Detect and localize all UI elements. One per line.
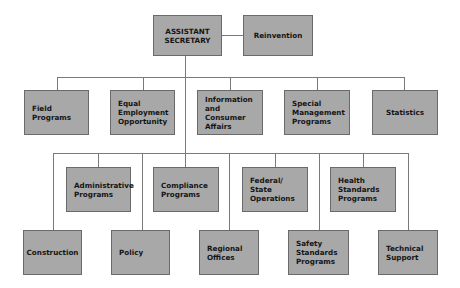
policy-connector [142,153,143,230]
root-to-reinvention-line [222,35,243,36]
regional-connector [229,153,230,230]
node-regional-offices: Regional Offices [199,230,259,275]
technical-connector [408,153,409,230]
node-assistant-secretary: ASSISTANT SECRETARY [153,15,222,56]
info-connector [230,77,231,90]
main-trunk-line [185,56,186,167]
node-info-consumer-affairs: Information and Consumer Affairs [197,90,263,135]
node-field-programs: Field Programs [24,90,89,135]
node-reinvention: Reinvention [243,15,313,56]
admin-connector [98,153,99,167]
node-eeo: Equal Employment Opportunity [110,90,175,135]
node-administrative-programs: Administrative Programs [66,167,131,212]
node-safety-standards: Safety Standards Programs [288,230,349,275]
federal-connector [275,153,276,167]
node-policy: Policy [111,230,170,275]
special-connector [317,77,318,90]
node-special-management: Special Management Programs [284,90,350,135]
construction-connector [53,153,54,230]
node-statistics: Statistics [372,90,438,135]
node-federal-state-operations: Federal/ State Operations [242,167,308,212]
eeo-connector [143,77,144,90]
level2-bus-line [53,153,409,154]
node-technical-support: Technical Support [378,230,438,275]
org-chart: ASSISTANT SECRETARY Reinvention Field Pr… [0,0,460,288]
node-compliance-programs: Compliance Programs [153,167,219,212]
statistics-connector [404,77,405,90]
node-construction: Construction [23,230,82,275]
node-health-standards: Health Standards Programs [330,167,396,212]
safety-connector [319,153,320,230]
health-connector [363,153,364,167]
field-connector [57,77,58,90]
